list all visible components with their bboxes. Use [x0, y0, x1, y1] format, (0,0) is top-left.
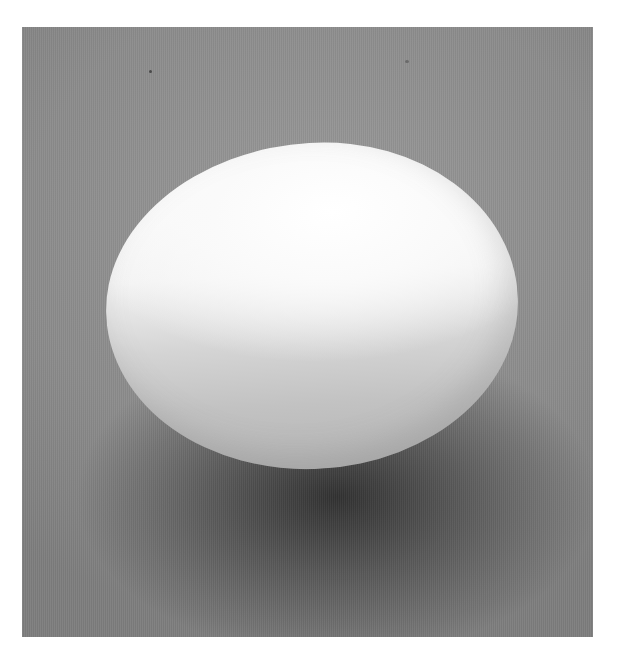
- photo: [22, 27, 593, 637]
- dust-speck: [149, 70, 152, 73]
- dust-speck: [405, 60, 409, 63]
